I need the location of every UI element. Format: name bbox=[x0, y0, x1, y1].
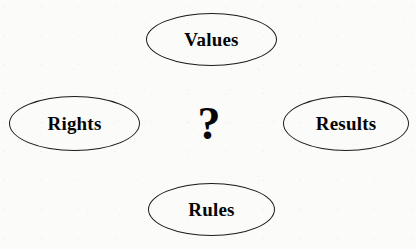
node-values-label: Values bbox=[184, 30, 238, 49]
node-results[interactable]: Results bbox=[283, 96, 409, 151]
question-mark-glyph: ? bbox=[198, 101, 221, 147]
node-results-label: Results bbox=[316, 114, 377, 133]
node-rules[interactable]: Rules bbox=[148, 183, 275, 236]
question-mark-icon: ? bbox=[189, 98, 229, 150]
node-rights[interactable]: Rights bbox=[9, 96, 140, 151]
diagram-canvas: Values Rights Results Rules ? bbox=[0, 0, 416, 249]
node-rights-label: Rights bbox=[48, 114, 102, 133]
node-values[interactable]: Values bbox=[146, 13, 277, 66]
node-rules-label: Rules bbox=[188, 200, 234, 219]
